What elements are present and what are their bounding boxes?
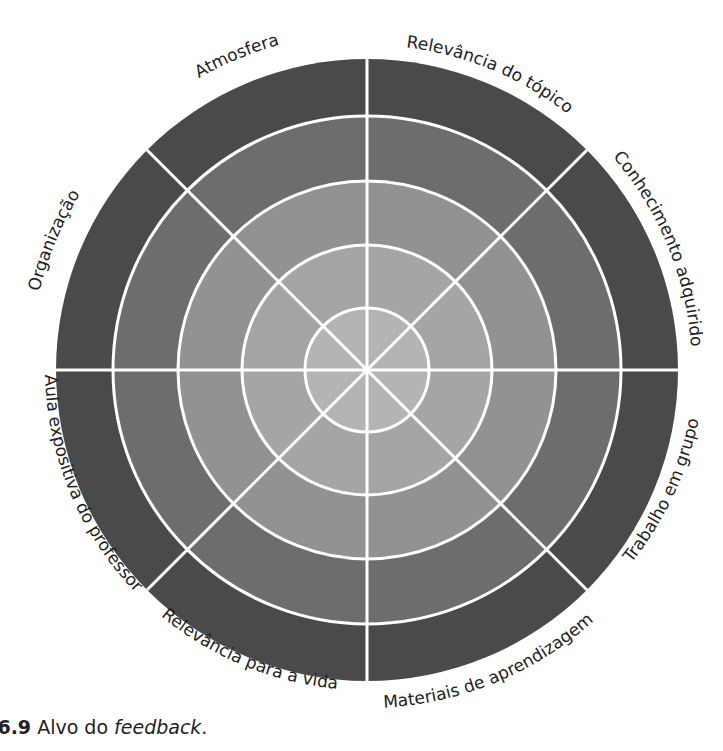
caption-emphasis: feedback bbox=[114, 716, 201, 738]
caption-text-after: . bbox=[201, 716, 207, 738]
feedback-target-diagram: Relevância do tópico Conhecimento adquir… bbox=[0, 0, 723, 751]
segment-spokes bbox=[56, 59, 678, 681]
label-atmosfera: Atmosfera bbox=[191, 29, 281, 81]
figure-number: a 6.9 bbox=[0, 716, 31, 738]
caption-text-before: Alvo do bbox=[31, 716, 114, 738]
figure-caption: a 6.9 Alvo do feedback. bbox=[0, 716, 207, 738]
